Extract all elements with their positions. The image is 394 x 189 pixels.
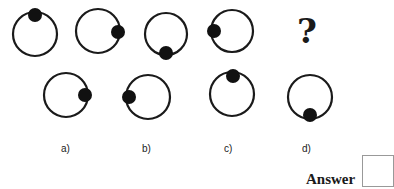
sequence-figure-4: [205, 7, 259, 59]
dot-icon: [207, 24, 221, 38]
dot-icon: [122, 90, 136, 104]
option-b-label[interactable]: b): [142, 143, 151, 154]
option-b-figure[interactable]: [119, 71, 173, 125]
sequence-figure-3: [142, 10, 192, 62]
option-d-label[interactable]: d): [302, 143, 311, 154]
answer-input-box[interactable]: [362, 155, 394, 187]
dot-icon: [303, 108, 317, 122]
answer-label: Answer: [306, 171, 355, 188]
dot-icon: [111, 25, 125, 39]
sequence-figure-2: [72, 5, 126, 59]
option-c-figure[interactable]: [207, 68, 259, 120]
dot-icon: [28, 8, 42, 22]
option-a-figure[interactable]: [41, 70, 95, 122]
dot-icon: [226, 69, 240, 83]
sequence-figure-1: [9, 7, 61, 59]
missing-figure-question-mark: ?: [297, 14, 317, 48]
dot-icon: [159, 46, 173, 60]
option-d-figure[interactable]: [284, 73, 336, 125]
dot-icon: [78, 88, 92, 102]
option-c-label[interactable]: c): [224, 143, 232, 154]
option-a-label[interactable]: a): [61, 143, 70, 154]
